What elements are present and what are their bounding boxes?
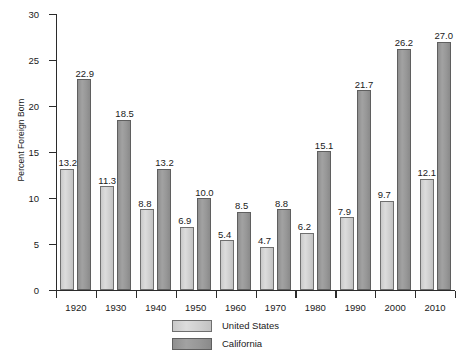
- y-axis-line: [56, 14, 57, 290]
- bar-value-label: 8.8: [275, 198, 288, 209]
- x-tick-label: 1930: [105, 302, 126, 313]
- bar-value-label: 8.5: [235, 200, 248, 211]
- x-tick: [455, 291, 456, 298]
- bar-california: 21.7: [357, 90, 371, 290]
- bar-value-label: 13.2: [58, 157, 77, 168]
- bar-value-label: 6.2: [298, 221, 311, 232]
- legend-item-california: California: [172, 336, 279, 351]
- bar-united-states: 6.2: [300, 233, 314, 290]
- bar-value-label: 18.5: [115, 108, 134, 119]
- y-tick-label: 5: [34, 239, 39, 250]
- bar-value-label: 11.3: [98, 175, 116, 186]
- bar-united-states: 8.8: [140, 209, 154, 290]
- bar-california: 13.2: [157, 169, 171, 290]
- bar-california: 27.0: [437, 42, 451, 290]
- x-tick-label: 1960: [225, 302, 246, 313]
- bar-value-label: 27.0: [435, 30, 454, 41]
- y-tick-label: 30: [28, 9, 39, 20]
- y-tick-label: 0: [34, 285, 39, 296]
- y-tick: 30: [49, 14, 56, 15]
- bar-value-label: 21.7: [355, 79, 374, 90]
- bar-california: 8.8: [277, 209, 291, 290]
- bar-united-states: 7.9: [340, 217, 354, 290]
- bar-value-label: 10.0: [195, 187, 214, 198]
- x-tick: [176, 291, 177, 298]
- legend-label-united-states: United States: [222, 320, 279, 331]
- bar-value-label: 4.7: [258, 235, 271, 246]
- y-tick: 5: [49, 244, 56, 245]
- bar-california: 8.5: [237, 212, 251, 290]
- y-axis-title: Percent Foreign Born: [16, 75, 26, 205]
- bar-value-label: 6.9: [178, 215, 191, 226]
- y-tick-label: 10: [28, 193, 39, 204]
- legend-item-united-states: United States: [172, 318, 279, 333]
- y-tick: 20: [49, 106, 56, 107]
- bar-value-label: 15.1: [315, 140, 334, 151]
- x-tick: [136, 291, 137, 298]
- y-tick-label: 15: [28, 147, 39, 158]
- bar-united-states: 11.3: [100, 186, 114, 290]
- bar-california: 26.2: [397, 49, 411, 290]
- bar-value-label: 26.2: [395, 37, 414, 48]
- x-tick: [216, 291, 217, 298]
- bar-value-label: 12.1: [418, 167, 437, 178]
- x-tick: [56, 291, 57, 298]
- x-tick: [415, 291, 416, 298]
- y-tick: 0: [49, 290, 56, 291]
- x-tick-label: 1950: [185, 302, 206, 313]
- bar-california: 10.0: [197, 198, 211, 290]
- bar-chart: Percent Foreign Born 051015202530 192019…: [0, 0, 463, 358]
- y-tick: 25: [49, 60, 56, 61]
- x-tick-label: 1920: [65, 302, 86, 313]
- bar-value-label: 13.2: [155, 157, 174, 168]
- x-tick-label: 1980: [305, 302, 326, 313]
- bar-value-label: 22.9: [75, 68, 94, 79]
- x-tick: [295, 291, 296, 298]
- x-tick-label: 2010: [424, 302, 445, 313]
- legend-label-california: California: [222, 338, 262, 349]
- bar-united-states: 9.7: [380, 201, 394, 290]
- bar-california: 18.5: [117, 120, 131, 290]
- x-tick: [375, 291, 376, 298]
- legend: United States California: [172, 318, 279, 354]
- y-tick: 10: [49, 198, 56, 199]
- x-tick-label: 1940: [145, 302, 166, 313]
- x-tick: [256, 291, 257, 298]
- x-tick: [96, 291, 97, 298]
- y-tick-label: 25: [28, 55, 39, 66]
- bar-united-states: 4.7: [260, 247, 274, 290]
- plot-area: 051015202530 192019301940195019601970198…: [56, 14, 455, 290]
- x-tick: [335, 291, 336, 298]
- y-tick: 15: [49, 152, 56, 153]
- bar-value-label: 5.4: [218, 229, 231, 240]
- bar-united-states: 5.4: [220, 240, 234, 290]
- x-tick-label: 1970: [265, 302, 286, 313]
- y-tick-label: 20: [28, 101, 39, 112]
- bar-california: 15.1: [317, 151, 331, 290]
- bar-value-label: 7.9: [338, 206, 351, 217]
- bar-california: 22.9: [77, 79, 91, 290]
- bar-value-label: 9.7: [378, 189, 391, 200]
- x-tick-label: 2000: [385, 302, 406, 313]
- bar-united-states: 12.1: [420, 179, 434, 290]
- x-tick-label: 1990: [345, 302, 366, 313]
- bar-united-states: 6.9: [180, 227, 194, 290]
- bar-united-states: 13.2: [60, 169, 74, 290]
- dark-gray-swatch-icon: [172, 338, 212, 350]
- bar-value-label: 8.8: [138, 198, 151, 209]
- light-gray-swatch-icon: [172, 320, 212, 332]
